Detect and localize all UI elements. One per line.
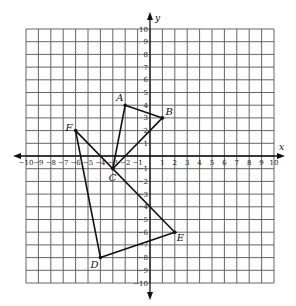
y-tick-label: 7 [144,64,148,72]
y-tick-label: −9 [138,267,148,275]
y-tick-label: 3 [144,114,148,122]
x-tick-label: −6 [70,159,81,167]
point-marker [161,116,165,120]
x-tick-label: 8 [247,159,251,167]
x-tick-label: 10 [270,159,279,167]
x-tick-label: −5 [83,159,93,167]
point-marker [123,103,127,107]
y-axis-down-arrow-icon [147,292,153,300]
point-label: B [164,106,172,117]
point-marker [99,256,103,260]
x-axis-label: x [279,142,284,152]
y-tick-label: −2 [138,178,148,186]
y-tick-label: 10 [139,26,148,34]
x-tick-label: 3 [185,159,189,167]
y-tick-label: −3 [138,191,148,199]
y-tick-label: −6 [138,229,149,237]
y-tick-label: −8 [138,254,148,262]
y-tick-label: 4 [144,102,149,110]
x-tick-label: −8 [46,159,56,167]
x-tick-label: 1 [160,159,164,167]
x-tick-label: −7 [58,159,68,167]
y-tick-label: 9 [144,38,148,46]
x-tick-label: 5 [210,159,214,167]
point-C: C [109,167,117,183]
y-tick-label: −10 [133,280,148,288]
coordinate-plane: x y −10−9−8−7−6−5−4−3−2−1123456789101098… [0,0,296,306]
point-label: C [109,172,117,183]
point-label: A [115,92,123,103]
y-axis-label: y [154,13,161,23]
point-marker [111,167,115,171]
point-label: D [89,259,98,270]
y-tick-label: −5 [138,216,148,224]
y-tick-label: −1 [138,165,148,173]
y-tick-label: 5 [144,89,148,97]
x-tick-label: 6 [222,159,227,167]
x-tick-label: 7 [235,159,239,167]
point-marker [74,129,78,133]
x-tick-label: −10 [19,159,34,167]
y-tick-label: 8 [144,51,148,59]
axes: x y [13,12,285,300]
point-label: F [65,122,74,133]
y-tick-label: 6 [144,76,149,84]
y-tick-label: 1 [144,140,148,148]
x-tick-label: 9 [259,159,263,167]
x-tick-label: −9 [33,159,43,167]
x-tick-label: 2 [173,159,177,167]
x-tick-label: 4 [197,159,202,167]
y-axis-up-arrow-icon [147,12,153,20]
point-label: E [176,232,185,243]
